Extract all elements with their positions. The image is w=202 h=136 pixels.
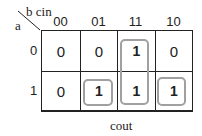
cell-r0-c00: 0 — [42, 31, 80, 71]
col-header-11: 11 — [117, 14, 154, 29]
row-header-1: 1 — [30, 83, 37, 98]
cell-r1-c00: 0 — [42, 72, 80, 110]
grid-line-right — [192, 30, 193, 112]
cell-r1-c10: 1 — [156, 72, 192, 110]
row-header-0: 0 — [30, 43, 37, 58]
cell-r0-c11: 1 — [118, 31, 155, 71]
col-header-10: 10 — [155, 14, 192, 29]
karnaugh-map: b cin a 00 01 11 10 0 1 0 0 1 0 0 1 1 1 … — [0, 0, 202, 136]
col-header-01: 01 — [80, 14, 117, 29]
output-label: cout — [110, 118, 132, 134]
cell-r1-c01: 1 — [81, 72, 117, 110]
corner-row-vars-label: a — [15, 18, 21, 34]
col-header-00: 00 — [42, 14, 79, 29]
cell-r0-c10: 0 — [156, 31, 192, 71]
cell-r0-c01: 0 — [81, 31, 117, 71]
cell-r1-c11: 1 — [118, 72, 155, 110]
